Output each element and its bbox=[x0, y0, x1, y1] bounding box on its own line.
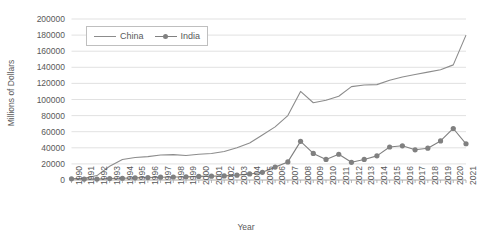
legend-entry-india: India bbox=[155, 32, 201, 41]
data-point-marker bbox=[349, 160, 354, 165]
data-point-marker bbox=[222, 173, 227, 178]
data-point-marker bbox=[69, 176, 74, 181]
data-point-marker bbox=[94, 177, 99, 182]
data-point-marker bbox=[183, 174, 188, 179]
data-point-marker bbox=[463, 141, 468, 146]
data-point-marker bbox=[234, 173, 239, 178]
data-point-marker bbox=[82, 176, 87, 181]
data-point-marker bbox=[374, 153, 379, 158]
data-point-marker bbox=[451, 126, 456, 131]
chart-container: Millions of Dollars 02000040000600008000… bbox=[0, 0, 492, 235]
data-point-marker bbox=[273, 165, 278, 170]
data-point-marker bbox=[400, 143, 405, 148]
chart-legend: China India bbox=[86, 26, 208, 46]
data-point-marker bbox=[247, 171, 252, 176]
plot-area bbox=[0, 0, 492, 235]
data-point-marker bbox=[336, 152, 341, 157]
data-point-marker bbox=[438, 138, 443, 143]
data-point-marker bbox=[425, 146, 430, 151]
data-point-marker bbox=[158, 175, 163, 180]
legend-entry-china: China bbox=[94, 32, 144, 41]
data-point-marker bbox=[145, 175, 150, 180]
x-axis-title: Year bbox=[0, 222, 492, 232]
data-point-marker bbox=[298, 139, 303, 144]
legend-label-india: India bbox=[181, 32, 201, 41]
data-point-marker bbox=[196, 174, 201, 179]
data-point-marker bbox=[362, 157, 367, 162]
data-point-marker bbox=[120, 176, 125, 181]
data-point-marker bbox=[107, 176, 112, 181]
data-point-marker bbox=[412, 147, 417, 152]
data-point-marker bbox=[209, 174, 214, 179]
line-swatch-icon bbox=[94, 32, 116, 40]
data-point-marker bbox=[387, 144, 392, 149]
legend-label-china: China bbox=[120, 32, 144, 41]
data-point-marker bbox=[260, 170, 265, 175]
series-line-india bbox=[72, 128, 467, 179]
series-line-china bbox=[72, 35, 467, 179]
data-point-marker bbox=[323, 157, 328, 162]
data-point-marker bbox=[133, 175, 138, 180]
data-point-marker bbox=[311, 151, 316, 156]
data-point-marker bbox=[285, 159, 290, 164]
data-point-marker bbox=[171, 174, 176, 179]
line-marker-swatch-icon bbox=[155, 32, 177, 40]
